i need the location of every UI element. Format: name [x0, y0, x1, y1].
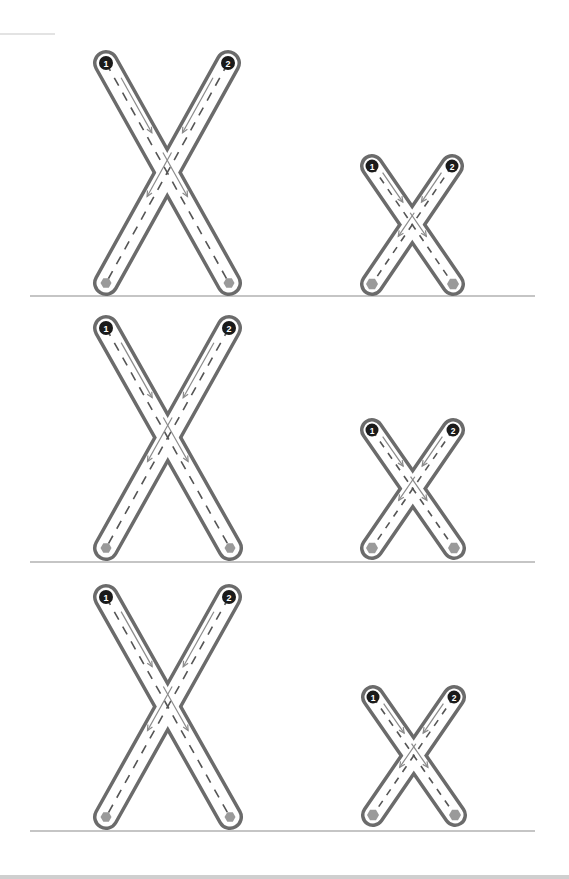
start-point-2: 2: [221, 56, 235, 70]
stroke-number-label: 1: [370, 162, 375, 172]
tracing-worksheet: 121212121212: [0, 0, 569, 879]
start-point-1: 1: [367, 691, 380, 704]
stroke-number-label: 2: [225, 59, 230, 69]
lowercase-x-row-3: 12: [367, 691, 462, 821]
worksheet-canvas: 121212121212: [0, 0, 569, 879]
uppercase-X-row-1: 12: [99, 56, 235, 288]
stroke-number-label: 1: [103, 593, 108, 603]
stroke-number-label: 1: [103, 324, 108, 334]
stroke-number-label: 2: [226, 593, 231, 603]
start-point-2: 2: [447, 424, 460, 437]
start-point-2: 2: [222, 590, 236, 604]
start-point-2: 2: [448, 691, 461, 704]
start-point-1: 1: [366, 424, 379, 437]
stroke-number-label: 2: [451, 426, 456, 436]
stroke-number-label: 1: [103, 59, 108, 69]
lowercase-x-row-1: 12: [366, 160, 460, 290]
start-point-1: 1: [366, 160, 379, 173]
lowercase-x-row-2: 12: [366, 424, 461, 554]
stroke-number-label: 2: [226, 324, 231, 334]
stroke-number-label: 2: [450, 162, 455, 172]
start-point-1: 1: [99, 56, 113, 70]
uppercase-X-row-3: 12: [99, 590, 236, 822]
stroke-number-label: 1: [371, 693, 376, 703]
stroke-number-label: 1: [370, 426, 375, 436]
start-point-2: 2: [222, 321, 236, 335]
page-bottom-edge: [0, 875, 569, 879]
uppercase-X-row-2: 12: [99, 321, 236, 553]
start-point-2: 2: [446, 160, 459, 173]
start-point-1: 1: [99, 321, 113, 335]
start-point-1: 1: [99, 590, 113, 604]
stroke-number-label: 2: [452, 693, 457, 703]
